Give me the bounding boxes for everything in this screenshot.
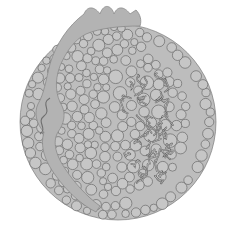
- phospholipid-head: [136, 28, 144, 36]
- phospholipid-head: [62, 196, 70, 204]
- core-sphere: [111, 142, 120, 151]
- phospholipid-head: [120, 197, 132, 209]
- phospholipid-head: [87, 47, 95, 55]
- phospholipid-head: [80, 105, 89, 114]
- phospholipid-head: [99, 190, 108, 199]
- phospholipid-head: [95, 127, 103, 135]
- phospholipid-head: [27, 102, 34, 109]
- phospholipid-head: [72, 51, 84, 63]
- phospholipid-head: [74, 133, 84, 143]
- phospholipid-head: [83, 80, 91, 88]
- core-sphere: [146, 117, 156, 127]
- core-sphere: [127, 101, 137, 111]
- phospholipid-head: [75, 74, 83, 82]
- phospholipid-head: [79, 39, 87, 47]
- phospholipid-head: [101, 118, 111, 128]
- phospholipid-head: [182, 102, 190, 110]
- phospholipid-head: [143, 54, 153, 64]
- phospholipid-head: [131, 208, 140, 217]
- phospholipid-head: [84, 141, 91, 148]
- phospholipid-head: [174, 79, 182, 87]
- phospholipid-head: [83, 128, 94, 139]
- phospholipid-head: [168, 88, 177, 97]
- phospholipid-head: [137, 60, 145, 68]
- phospholipid-head: [156, 198, 168, 210]
- phospholipid-head: [151, 60, 160, 69]
- phospholipid-head: [154, 36, 165, 47]
- phospholipid-head: [67, 101, 77, 111]
- phospholipid-head: [38, 64, 45, 71]
- phospholipid-head: [150, 204, 157, 211]
- core-sphere: [121, 140, 131, 150]
- phospholipid-head: [131, 39, 138, 46]
- core-sphere: [127, 161, 139, 173]
- core-sphere: [109, 70, 123, 84]
- core-sphere: [117, 162, 127, 172]
- phospholipid-head: [163, 68, 172, 77]
- phospholipid-head: [98, 74, 109, 85]
- core-sphere: [109, 102, 120, 113]
- phospholipid-head: [98, 210, 107, 219]
- phospholipid-head: [103, 84, 110, 91]
- phospholipid-head: [122, 210, 130, 218]
- phospholipid-head: [120, 40, 128, 48]
- phospholipid-head: [176, 110, 186, 120]
- phospholipid-head: [73, 170, 82, 179]
- phospholipid-head: [92, 160, 101, 169]
- phospholipid-head: [205, 117, 214, 126]
- core-sphere: [117, 110, 127, 120]
- phospholipid-head: [23, 137, 34, 148]
- phospholipid-head: [97, 91, 109, 103]
- phospholipid-head: [43, 57, 50, 64]
- phospholipid-head: [198, 80, 208, 90]
- phospholipid-head: [102, 48, 112, 58]
- phospholipid-head: [95, 65, 104, 74]
- core-sphere: [126, 66, 137, 77]
- phospholipid-head: [178, 92, 187, 101]
- phospholipid-head: [177, 132, 188, 143]
- phospholipid-head: [76, 154, 84, 162]
- phospholipid-head: [65, 150, 74, 159]
- core-sphere: [117, 178, 128, 189]
- phospholipid-head: [90, 73, 97, 80]
- core-sphere: [108, 173, 118, 183]
- phospholipid-head: [203, 128, 214, 139]
- phospholipid-head: [102, 202, 111, 211]
- phospholipid-head: [35, 132, 44, 141]
- phospholipid-head: [75, 143, 85, 153]
- phospholipid-head: [85, 147, 97, 159]
- phospholipid-head: [192, 161, 203, 172]
- phospholipid-head: [46, 179, 55, 188]
- phospholipid-head: [196, 150, 207, 161]
- phospholipid-head: [206, 108, 214, 116]
- phospholipid-head: [113, 32, 121, 40]
- phospholipid-head: [129, 47, 137, 55]
- phospholipid-head: [86, 184, 97, 195]
- phospholipid-head: [68, 121, 76, 129]
- phospholipid-head: [102, 163, 110, 171]
- phospholipid-head: [191, 71, 202, 82]
- phospholipid-head: [201, 140, 210, 149]
- phospholipid-head: [141, 205, 150, 214]
- phospholipid-head: [99, 57, 108, 66]
- phospholipid-head: [172, 50, 182, 60]
- phospholipid-head: [25, 89, 33, 97]
- lipoprotein-illustration: [0, 0, 234, 227]
- phospholipid-head: [72, 201, 82, 211]
- phospholipid-head: [108, 210, 117, 219]
- phospholipid-head: [100, 178, 107, 185]
- phospholipid-head: [30, 157, 41, 168]
- core-sphere: [139, 107, 149, 117]
- phospholipid-head: [55, 186, 64, 195]
- phospholipid-head: [181, 119, 189, 127]
- phospholipid-head: [144, 63, 153, 72]
- core-sphere: [113, 152, 122, 161]
- phospholipid-head: [76, 86, 85, 95]
- phospholipid-head: [82, 171, 94, 183]
- phospholipid-head: [79, 95, 89, 105]
- phospholipid-head: [92, 57, 100, 65]
- phospholipid-head: [72, 111, 82, 121]
- core-sphere: [130, 129, 140, 139]
- phospholipid-head: [91, 100, 100, 109]
- phospholipid-head: [28, 81, 35, 88]
